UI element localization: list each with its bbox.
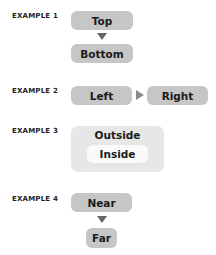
near-box: Near [71,193,132,212]
left-box: Left [71,86,132,105]
right-box: Right [147,86,208,105]
bottom-box: Bottom [71,44,133,63]
arrow-down-icon [97,216,107,223]
arrow-down-icon [97,33,107,40]
top-box: Top [71,11,133,30]
arrow-right-icon [136,90,144,100]
example-1-label: EXAMPLE 1 [12,12,58,20]
outside-box: Outside Inside [71,126,164,172]
inside-box: Inside [87,145,148,163]
far-box: Far [86,228,117,248]
example-3-label: EXAMPLE 3 [12,127,58,135]
example-2-label: EXAMPLE 2 [12,87,58,95]
example-4-label: EXAMPLE 4 [12,195,58,203]
outside-label: Outside [71,129,164,141]
